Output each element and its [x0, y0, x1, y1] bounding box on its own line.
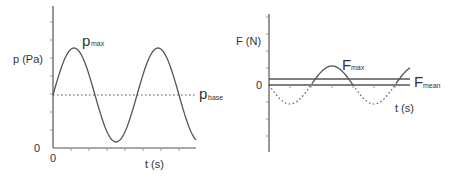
f-mean-main: F	[414, 73, 423, 90]
f-max-label: F max	[342, 56, 365, 73]
p-max-sub: max	[91, 40, 105, 47]
right-zero-label: 0	[256, 79, 262, 91]
f-mean-label: F mean	[414, 73, 441, 90]
force-negative-half-dotted	[269, 84, 312, 104]
left-x-origin-label: 0	[50, 152, 56, 164]
p-max-main: p	[82, 32, 90, 49]
right-chart: F (N) 0 t (s) F max F mean	[236, 14, 441, 152]
right-y-axis-label: F (N)	[236, 35, 261, 47]
left-y-origin-label: 0	[34, 142, 40, 154]
left-chart: p (Pa) 0 0 t (s) p max p base	[13, 6, 223, 170]
p-max-label: p max	[82, 32, 105, 49]
force-positive-half	[396, 68, 410, 84]
f-max-sub: max	[351, 64, 365, 71]
right-x-axis-label: t (s)	[395, 102, 414, 114]
left-x-axis-label: t (s)	[145, 158, 164, 170]
p-base-label: p base	[199, 85, 223, 102]
f-mean-sub: mean	[423, 82, 441, 89]
p-base-main: p	[199, 85, 207, 102]
p-base-sub: base	[208, 94, 223, 101]
left-y-axis-label: p (Pa)	[13, 53, 43, 65]
diagram-canvas: p (Pa) 0 0 t (s) p max p base F (N) 0 t …	[0, 0, 451, 182]
f-max-main: F	[342, 56, 351, 73]
force-negative-half-dotted	[353, 84, 396, 104]
